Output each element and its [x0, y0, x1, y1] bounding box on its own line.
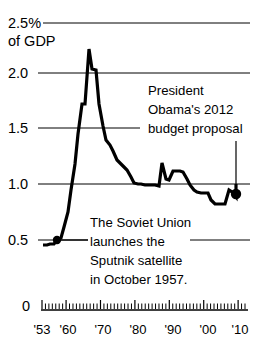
sputnik-callout: [53, 236, 88, 244]
y-label-unit-percent: 2.5%: [8, 15, 41, 31]
x-axis-ticks: [42, 300, 245, 309]
x-label-80: '80: [130, 322, 147, 337]
x-label-53: '53: [34, 322, 51, 337]
y-label-unit-gdp: of GDP: [8, 33, 56, 49]
sputnik-anno-line-1: The Soviet Union: [90, 215, 191, 230]
sputnik-anno-line-2: launches the: [90, 234, 165, 249]
x-label-10: '10: [232, 322, 249, 337]
x-axis-labels: '53 '60 '70 '80 '90 '00 '10: [34, 322, 249, 337]
sputnik-anno-line-3: Sputnik satellite: [90, 253, 182, 268]
chart-svg: 2.5% of GDP 2.0 1.5 1.0 0.5 0 '53: [0, 0, 264, 342]
obama-proposal-marker: [231, 189, 241, 199]
x-label-60: '60: [60, 322, 77, 337]
x-label-90: '90: [165, 322, 182, 337]
y-label-0-5: 0.5: [8, 232, 28, 248]
y-axis-labels: 2.5% of GDP 2.0 1.5 1.0 0.5 0: [8, 15, 56, 314]
y-label-2-0: 2.0: [8, 65, 28, 81]
x-label-70: '70: [95, 322, 112, 337]
obama-anno-line-2: Obama's 2012: [148, 102, 233, 117]
x-label-00: '00: [200, 322, 217, 337]
obama-anno-line-3: budget proposal: [148, 121, 243, 136]
sputnik-anno-line-4: in October 1957.: [90, 272, 188, 287]
y-label-1-0: 1.0: [8, 176, 28, 192]
obama-anno-line-1: President: [148, 83, 204, 98]
obama-budget-annotation: President Obama's 2012 budget proposal: [148, 83, 243, 136]
nasa-budget-chart: 2.5% of GDP 2.0 1.5 1.0 0.5 0 '53: [0, 0, 264, 342]
y-label-1-5: 1.5: [8, 120, 28, 136]
sputnik-annotation: The Soviet Union launches the Sputnik sa…: [90, 215, 191, 287]
y-label-0: 0: [22, 298, 30, 314]
obama-proposal-callout: [231, 141, 241, 199]
